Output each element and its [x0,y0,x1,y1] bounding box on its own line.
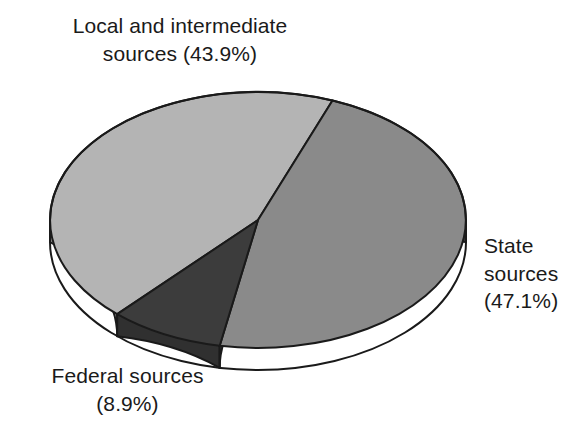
slice-label-local: Local and intermediate sources (43.9%) [30,12,330,67]
pie-chart-figure: Local and intermediate sources (43.9%) S… [0,0,587,425]
slice-label-state: State sources (47.1%) [484,232,584,315]
slice-label-federal: Federal sources (8.9%) [20,362,235,417]
